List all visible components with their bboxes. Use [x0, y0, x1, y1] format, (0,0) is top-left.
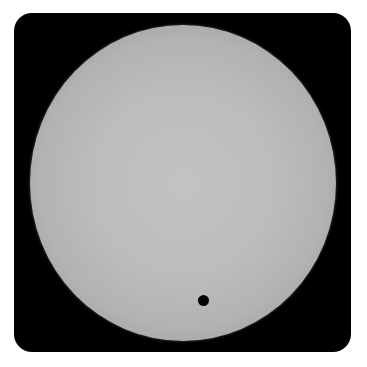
black-frame — [14, 13, 351, 352]
sun-disc — [30, 25, 336, 341]
transiting-planet — [198, 295, 209, 306]
